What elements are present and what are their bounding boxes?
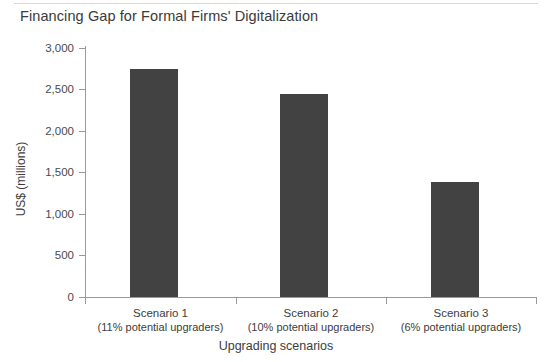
y-tick-label: 0: [68, 291, 74, 303]
x-category-name: Scenario 1: [133, 307, 188, 319]
x-tick-mark: [386, 298, 387, 304]
y-tick-mark: [79, 89, 85, 90]
x-axis-title: Upgrading scenarios: [0, 339, 552, 353]
x-category-sublabel: (11% potential upgraders): [85, 320, 236, 334]
x-category-label-3: Scenario 3 (6% potential upgraders): [386, 306, 536, 334]
y-tick-mark: [79, 255, 85, 256]
x-tick-mark: [536, 298, 537, 304]
y-tick-label: 500: [55, 249, 74, 261]
bar-scenario-2: [280, 94, 328, 297]
y-tick-label: 3,000: [45, 42, 74, 54]
x-category-name: Scenario 3: [434, 307, 489, 319]
x-category-name: Scenario 2: [284, 307, 339, 319]
x-category-label-1: Scenario 1 (11% potential upgraders): [85, 306, 236, 334]
x-category-label-2: Scenario 2 (10% potential upgraders): [236, 306, 386, 334]
x-tick-mark: [236, 298, 237, 304]
x-category-sublabel: (10% potential upgraders): [236, 320, 386, 334]
y-tick-mark: [79, 48, 85, 49]
x-axis-line: [85, 297, 537, 298]
bar-scenario-1: [130, 69, 178, 297]
y-tick-label: 2,500: [45, 83, 74, 95]
y-tick-label: 1,500: [45, 166, 74, 178]
x-category-sublabel: (6% potential upgraders): [386, 320, 536, 334]
chart-page: Financing Gap for Formal Firms' Digitali…: [0, 0, 552, 362]
y-tick-mark: [79, 214, 85, 215]
x-tick-mark: [85, 298, 86, 304]
y-tick-mark: [79, 131, 85, 132]
plot-area: 3,000 2,500 2,000 1,500 1,000 500 0 US$ …: [0, 0, 552, 362]
y-tick-label: 2,000: [45, 125, 74, 137]
y-tick-label: 1,000: [45, 208, 74, 220]
y-axis-title: US$ (millions): [14, 119, 28, 239]
y-tick-mark: [79, 172, 85, 173]
bar-scenario-3: [431, 182, 479, 297]
y-axis-line: [85, 46, 86, 298]
